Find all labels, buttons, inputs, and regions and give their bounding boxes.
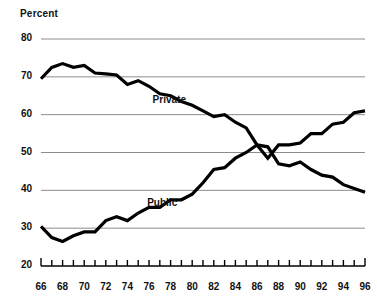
x-axis-tick-label: 96	[354, 281, 376, 292]
x-axis-tick-label: 76	[138, 281, 160, 292]
series-line-public	[41, 111, 365, 242]
y-axis-tick-label: 70	[6, 70, 32, 81]
x-axis-tick-label: 88	[268, 281, 290, 292]
x-axis-tick-label: 82	[203, 281, 225, 292]
x-axis-tick-label: 92	[311, 281, 333, 292]
y-axis-tick-label: 30	[6, 221, 32, 232]
y-axis-tick-label: 20	[6, 259, 32, 270]
x-axis-tick-label: 94	[332, 281, 354, 292]
x-axis-tick-label: 78	[160, 281, 182, 292]
y-axis-tick-label: 80	[6, 32, 32, 43]
x-axis-tick-label: 68	[52, 281, 74, 292]
series-annotation-private: Private	[153, 94, 186, 105]
x-axis-tick-label: 66	[30, 281, 52, 292]
x-axis-tick-label: 80	[181, 281, 203, 292]
plot-area	[0, 0, 377, 301]
series-line-private	[41, 64, 365, 193]
series-annotation-public: Public	[147, 197, 177, 208]
x-axis-tick-label: 72	[95, 281, 117, 292]
y-axis-tick-label: 40	[6, 183, 32, 194]
y-axis-tick-label: 50	[6, 146, 32, 157]
chart-container: Percent 80706050403020666870727476788082…	[0, 0, 377, 301]
x-axis-tick-label: 74	[116, 281, 138, 292]
x-axis-tick-label: 84	[224, 281, 246, 292]
x-axis-tick-label: 70	[73, 281, 95, 292]
y-axis-tick-label: 60	[6, 108, 32, 119]
x-axis-tick-label: 90	[289, 281, 311, 292]
x-axis-tick-label: 86	[246, 281, 268, 292]
